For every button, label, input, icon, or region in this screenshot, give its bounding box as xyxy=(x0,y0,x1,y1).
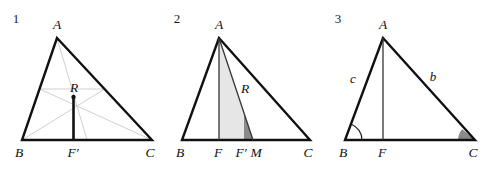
vertex-label-f-prime: F′ xyxy=(66,145,79,160)
median-line-c xyxy=(40,89,153,140)
vertex-label-r: R xyxy=(69,80,79,95)
vertex-label-m: M xyxy=(249,145,262,160)
side-label-c: c xyxy=(350,71,356,86)
panel-number-1: 1 xyxy=(13,11,20,26)
vertex-label-b: B xyxy=(176,145,184,160)
angle-arc-b-icon xyxy=(351,124,362,140)
median-lines-group xyxy=(22,38,152,140)
vertex-label-f: F xyxy=(213,145,223,160)
panel-number-2: 2 xyxy=(174,11,181,26)
vertex-label-c: C xyxy=(468,145,478,160)
panel-3: 3 A B C F c b xyxy=(335,11,479,160)
triangle-outline xyxy=(345,38,475,140)
figure-canvas: 1 A B C R F′ 2 xyxy=(0,0,496,172)
vertex-label-b: B xyxy=(339,145,347,160)
vertex-label-a: A xyxy=(214,17,224,32)
median-line-b xyxy=(22,89,105,140)
vertex-label-a: A xyxy=(378,17,388,32)
vertex-label-b: B xyxy=(15,145,23,160)
vertex-label-r: R xyxy=(240,81,250,96)
triangle-figure: 1 A B C R F′ 2 xyxy=(0,0,496,172)
side-label-b: b xyxy=(430,69,437,84)
vertex-label-c: C xyxy=(145,145,155,160)
vertex-label-a: A xyxy=(52,17,62,32)
vertex-label-f-prime: F′ xyxy=(234,145,247,160)
panel-1: 1 A B C R F′ xyxy=(13,11,156,160)
panel-number-3: 3 xyxy=(335,11,342,26)
vertex-label-f: F xyxy=(377,145,387,160)
point-r-marker xyxy=(71,95,75,99)
panel-2: 2 A B C F F′ M R xyxy=(174,11,314,160)
vertex-label-c: C xyxy=(303,145,313,160)
